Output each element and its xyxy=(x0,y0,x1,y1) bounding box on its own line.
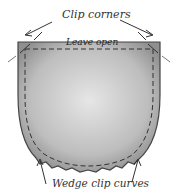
label-wedge-clip-curves: Wedge clip curves xyxy=(52,177,149,189)
label-leave-open: Leave open xyxy=(66,37,118,47)
fabric-piece xyxy=(18,42,160,172)
pouch-illustration xyxy=(0,0,179,195)
label-clip-corners: Clip corners xyxy=(62,8,131,21)
